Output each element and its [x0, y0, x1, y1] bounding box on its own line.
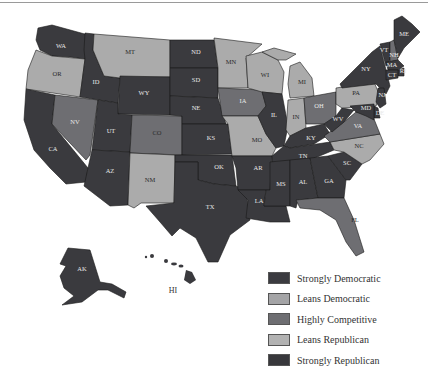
state-ar[interactable]: [232, 156, 272, 190]
label-nc: NC: [354, 142, 363, 149]
label-de: DE: [376, 109, 385, 116]
label-nm: NM: [145, 176, 156, 183]
label-nv: NV: [70, 118, 80, 125]
swatch-highly-competitive: [268, 313, 290, 325]
label-nd: ND: [191, 48, 201, 55]
label-ne: NE: [192, 104, 201, 111]
label-ms: MS: [276, 180, 286, 187]
label-me: ME: [399, 30, 409, 37]
label-ma: MA: [387, 61, 398, 68]
legend-label: Highly Competitive: [297, 314, 377, 325]
label-sd: SD: [192, 76, 201, 83]
label-ca: CA: [48, 145, 57, 152]
legend: Strongly Democratic Leans Democratic Hig…: [268, 268, 418, 369]
label-or: OR: [52, 70, 62, 77]
label-hi: HI: [169, 286, 178, 295]
label-ok: OK: [214, 163, 224, 170]
legend-item-strongly-democratic: Strongly Democratic: [268, 268, 418, 289]
label-ri: RI: [400, 67, 407, 74]
label-pa: PA: [352, 89, 360, 96]
label-md: MD: [361, 104, 372, 111]
label-ia: IA: [240, 97, 247, 104]
label-nj: NJ: [378, 91, 386, 98]
label-mt: MT: [125, 48, 135, 55]
legend-label: Strongly Democratic: [297, 273, 381, 284]
swatch-leans-democratic: [268, 293, 290, 305]
label-oh: OH: [314, 102, 324, 109]
state-fl[interactable]: [296, 198, 364, 256]
label-al: AL: [299, 178, 308, 185]
label-id: ID: [93, 78, 100, 85]
label-wy: WY: [139, 89, 150, 96]
label-ks: KS: [207, 134, 216, 141]
label-wi: WI: [261, 71, 269, 78]
legend-label: Leans Democratic: [297, 293, 370, 304]
label-tx: TX: [206, 203, 215, 210]
label-az: AZ: [106, 167, 115, 174]
label-il: IL: [271, 111, 277, 118]
label-ct: CT: [388, 71, 396, 78]
label-nh: NH: [389, 51, 399, 58]
label-wa: WA: [56, 42, 66, 49]
label-wv: WV: [333, 115, 344, 122]
legend-item-strongly-republican: Strongly Republican: [268, 350, 418, 369]
legend-item-leans-democratic: Leans Democratic: [268, 289, 418, 310]
swatch-leans-republican: [268, 334, 290, 346]
label-ar: AR: [253, 164, 263, 171]
state-az[interactable]: [84, 150, 130, 206]
label-ut: UT: [107, 127, 116, 134]
legend-label: Strongly Republican: [297, 355, 380, 366]
label-ky: KY: [306, 134, 316, 141]
label-ga: GA: [324, 177, 334, 184]
label-in: IN: [293, 113, 300, 120]
label-tn: TN: [299, 152, 308, 159]
swatch-strongly-democratic: [268, 272, 290, 284]
label-mi: MI: [298, 78, 306, 85]
label-mo: MO: [252, 136, 263, 143]
legend-item-highly-competitive: Highly Competitive: [268, 309, 418, 330]
label-la: LA: [255, 197, 264, 204]
state-mt[interactable]: [93, 34, 170, 78]
label-ny: NY: [361, 65, 371, 72]
label-mn: MN: [226, 58, 237, 65]
label-co: CO: [152, 129, 161, 136]
label-fl: FL: [351, 216, 359, 223]
state-hi[interactable]: [145, 254, 196, 284]
label-sc: SC: [343, 159, 351, 166]
label-ak: AK: [77, 265, 87, 272]
legend-label: Leans Republican: [297, 334, 369, 345]
legend-item-leans-republican: Leans Republican: [268, 330, 418, 351]
swatch-strongly-republican: [268, 354, 290, 366]
state-ak[interactable]: [60, 248, 126, 305]
label-va: VA: [354, 122, 363, 129]
label-vt: VT: [380, 46, 389, 53]
